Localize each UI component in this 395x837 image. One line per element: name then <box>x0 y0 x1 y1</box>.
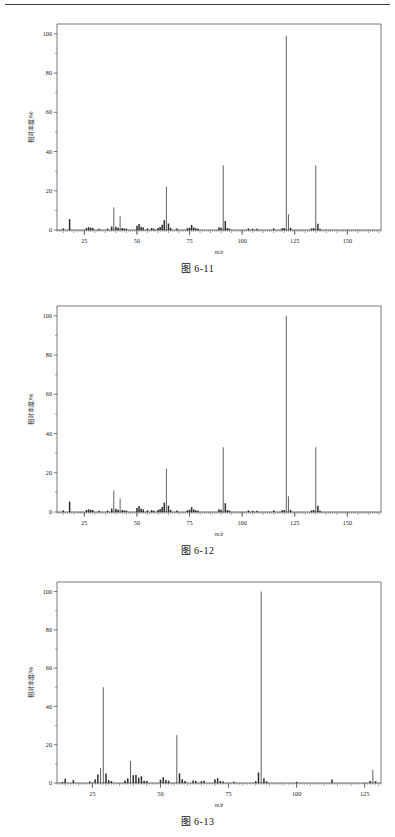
mass-spectrum-svg-2: 020406080100255075100125150m/z相对丰度/% <box>0 292 395 542</box>
svg-text:40: 40 <box>46 430 52 437</box>
figure-6-12: 020406080100255075100125150m/z相对丰度/% 图 6… <box>0 292 395 557</box>
svg-text:60: 60 <box>46 108 52 115</box>
svg-text:相对丰度/%: 相对丰度/% <box>27 393 35 425</box>
svg-text:20: 20 <box>46 187 52 194</box>
svg-text:125: 125 <box>360 790 369 797</box>
svg-text:0: 0 <box>49 779 52 786</box>
chart-6-11: 020406080100255075100125150m/z相对丰度/% <box>0 10 395 260</box>
chart-6-12: 020406080100255075100125150m/z相对丰度/% <box>0 292 395 542</box>
svg-text:20: 20 <box>46 469 52 476</box>
svg-text:75: 75 <box>186 519 192 526</box>
svg-text:100: 100 <box>43 312 52 319</box>
document-page: 020406080100255075100125150m/z相对丰度/% 图 6… <box>0 0 395 837</box>
figure-caption-1: 图 6-11 <box>0 260 395 275</box>
svg-text:75: 75 <box>186 237 192 244</box>
svg-text:50: 50 <box>157 790 163 797</box>
svg-text:125: 125 <box>290 519 299 526</box>
svg-text:m/z: m/z <box>215 531 224 537</box>
svg-text:0: 0 <box>49 508 52 515</box>
svg-text:150: 150 <box>343 237 352 244</box>
svg-text:75: 75 <box>225 790 231 797</box>
svg-text:60: 60 <box>46 390 52 397</box>
header-rule <box>5 4 390 5</box>
mass-spectrum-svg-1: 020406080100255075100125150m/z相对丰度/% <box>0 10 395 260</box>
svg-text:40: 40 <box>46 703 52 710</box>
svg-text:40: 40 <box>46 148 52 155</box>
svg-text:20: 20 <box>46 741 52 748</box>
svg-text:相对丰度/%: 相对丰度/% <box>27 111 35 143</box>
svg-text:相对丰度/%: 相对丰度/% <box>27 666 35 698</box>
svg-text:25: 25 <box>89 790 95 797</box>
mass-spectrum-svg-3: 020406080100255075100125m/z相对丰度/% <box>0 568 395 813</box>
svg-text:50: 50 <box>134 237 140 244</box>
svg-text:125: 125 <box>290 237 299 244</box>
figure-caption-2: 图 6-12 <box>0 542 395 557</box>
svg-text:80: 80 <box>46 626 52 633</box>
svg-text:0: 0 <box>49 226 52 233</box>
svg-text:50: 50 <box>134 519 140 526</box>
figure-6-11: 020406080100255075100125150m/z相对丰度/% 图 6… <box>0 10 395 275</box>
chart-6-13: 020406080100255075100125m/z相对丰度/% <box>0 568 395 813</box>
svg-text:60: 60 <box>46 664 52 671</box>
svg-text:80: 80 <box>46 351 52 358</box>
svg-text:150: 150 <box>343 519 352 526</box>
svg-text:25: 25 <box>81 519 87 526</box>
svg-text:m/z: m/z <box>215 802 224 808</box>
svg-text:80: 80 <box>46 69 52 76</box>
svg-text:100: 100 <box>292 790 301 797</box>
svg-text:100: 100 <box>43 588 52 595</box>
figure-6-13: 020406080100255075100125m/z相对丰度/% 图 6-13 <box>0 568 395 828</box>
svg-text:100: 100 <box>238 237 247 244</box>
svg-text:m/z: m/z <box>215 249 224 255</box>
svg-text:100: 100 <box>43 30 52 37</box>
svg-text:100: 100 <box>238 519 247 526</box>
svg-text:25: 25 <box>81 237 87 244</box>
figure-caption-3: 图 6-13 <box>0 813 395 828</box>
